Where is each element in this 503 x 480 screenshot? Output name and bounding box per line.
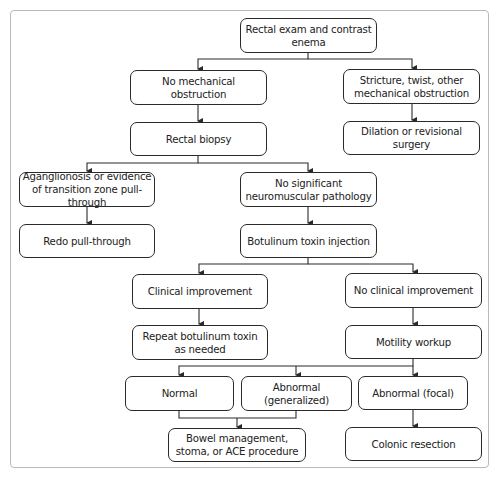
node-stricture: Stricture, twist, other mechanical obstr…	[343, 69, 480, 104]
node-normal: Normal	[125, 376, 234, 411]
node-label: Colonic resection	[371, 438, 455, 451]
node-label: Rectal biopsy	[166, 133, 232, 146]
node-no-mechanical-obstruction: No mechanical obstruction	[130, 70, 267, 105]
node-colonic-resection: Colonic resection	[345, 427, 482, 461]
node-label: No significant neuromuscular pathology	[244, 177, 373, 203]
node-label: Stricture, twist, other mechanical obstr…	[347, 74, 476, 100]
node-redo-pull-through: Redo pull-through	[19, 224, 155, 258]
node-motility-workup: Motility workup	[345, 325, 482, 359]
node-label: Normal	[162, 387, 198, 400]
node-label: Rectal exam and contrast enema	[244, 23, 373, 49]
node-label: Repeat botulinum toxin as needed	[136, 330, 264, 356]
node-repeat-botulinum: Repeat botulinum toxin as needed	[132, 325, 268, 360]
node-label: Dilation or revisional surgery	[347, 125, 476, 151]
node-label: Motility workup	[376, 336, 451, 349]
node-abnormal-generalized: Abnormal (generalized)	[241, 376, 352, 411]
node-label: Abnormal (generalized)	[264, 381, 329, 407]
node-label: Bowel management, stoma, or ACE procedur…	[175, 432, 299, 458]
node-no-significant-pathology: No significant neuromuscular pathology	[240, 172, 377, 207]
node-botulinum-injection: Botulinum toxin injection	[240, 224, 377, 258]
node-rectal-exam: Rectal exam and contrast enema	[240, 18, 377, 53]
node-label: No clinical improvement	[354, 284, 473, 297]
node-bowel-management: Bowel management, stoma, or ACE procedur…	[168, 428, 306, 462]
node-rectal-biopsy: Rectal biopsy	[130, 122, 267, 156]
node-dilation: Dilation or revisional surgery	[343, 121, 480, 155]
node-label: Aganglionosis or evidence of transition …	[21, 170, 153, 209]
node-label: Redo pull-through	[43, 235, 131, 248]
node-no-clinical-improvement: No clinical improvement	[345, 273, 482, 308]
node-abnormal-focal: Abnormal (focal)	[358, 376, 468, 410]
node-aganglionosis: Aganglionosis or evidence of transition …	[19, 172, 155, 207]
node-clinical-improvement: Clinical improvement	[132, 274, 268, 309]
node-label: No mechanical obstruction	[134, 75, 263, 101]
node-label: Botulinum toxin injection	[247, 235, 369, 248]
node-label: Clinical improvement	[148, 285, 252, 298]
node-label: Abnormal (focal)	[372, 387, 454, 400]
